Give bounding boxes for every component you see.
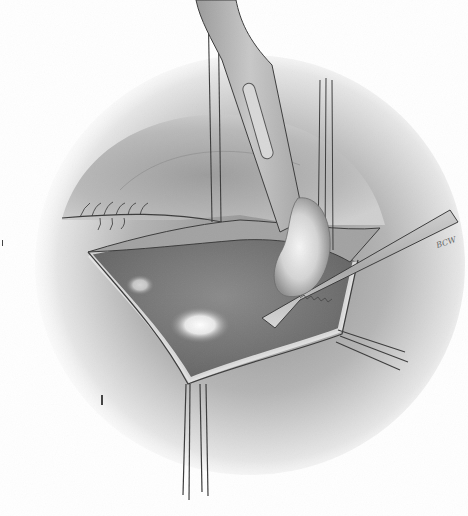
margin-mark	[2, 240, 3, 246]
margin-mark	[101, 395, 103, 405]
surgical-illustration	[0, 0, 468, 516]
pencil-grain	[0, 0, 468, 516]
